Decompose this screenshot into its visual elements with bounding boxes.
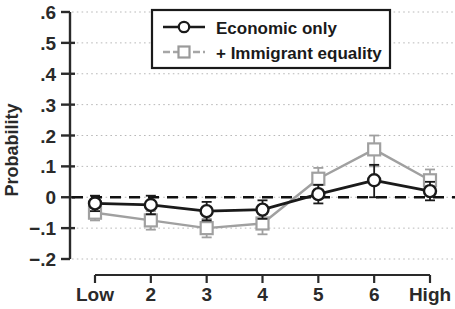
data-point-marker: [145, 214, 157, 226]
x-tick-label: 4: [257, 284, 268, 305]
y-axis-title: Probability: [2, 103, 22, 196]
legend-label-economic-only: Economic only: [216, 19, 337, 38]
y-tick-label: .2: [40, 126, 56, 147]
data-point-marker: [424, 185, 436, 197]
y-tick-label: −.2: [29, 249, 56, 270]
legend-circle-marker-icon: [179, 22, 189, 32]
y-tick-label: 0: [45, 187, 56, 208]
data-point-marker: [368, 143, 380, 155]
data-point-marker: [201, 205, 213, 217]
data-point-marker: [257, 204, 269, 216]
probability-line-chart: .6.5.4.3.2.10−.1−.2 Probability Low23456…: [0, 0, 455, 309]
y-tick-label: .1: [40, 156, 56, 177]
y-tick-label: −.1: [29, 218, 56, 239]
y-tick-label: .3: [40, 95, 56, 116]
x-tick-label: High: [409, 284, 451, 305]
data-point-marker: [368, 174, 380, 186]
chart-legend: Economic only + Immigrant equality: [152, 10, 390, 68]
x-tick-label: 5: [313, 284, 324, 305]
data-point-marker: [201, 222, 213, 234]
data-point-marker: [312, 173, 324, 185]
x-tick-label: 2: [146, 284, 157, 305]
data-point-marker: [89, 197, 101, 209]
y-tick-label: .6: [40, 2, 56, 23]
y-tick-label: .5: [40, 33, 56, 54]
x-tick-label: 6: [369, 284, 380, 305]
data-point-marker: [145, 199, 157, 211]
data-point-marker: [312, 188, 324, 200]
x-tick-label: Low: [76, 284, 114, 305]
legend-square-marker-icon: [179, 47, 190, 58]
legend-label-immigrant-equality: + Immigrant equality: [216, 44, 382, 63]
y-tick-label: .4: [40, 64, 56, 85]
chart-figure: .6.5.4.3.2.10−.1−.2 Probability Low23456…: [0, 0, 455, 309]
x-tick-label: 3: [201, 284, 212, 305]
